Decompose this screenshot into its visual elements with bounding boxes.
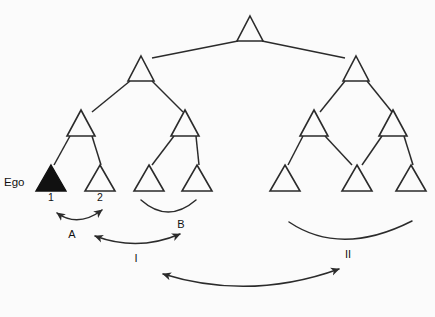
tree-node-root (237, 16, 263, 41)
edge-L2c-leaf5 (288, 136, 303, 165)
edge-L2b-leaf3 (152, 136, 174, 165)
relation-arc-bottom (163, 269, 339, 286)
edge-L1b-L2d (367, 81, 392, 112)
edge-L2a-leaf1 (54, 136, 70, 165)
edge-L1b-L2c (320, 81, 345, 112)
ego-label: Ego (4, 176, 24, 188)
relation-label-A: A (68, 228, 76, 240)
relation-label-I: I (134, 252, 137, 264)
relation-arc-I (95, 234, 180, 244)
tree-node-L2a (67, 110, 95, 136)
edge-root-L1a (152, 41, 238, 58)
relation-arc-A (57, 210, 102, 220)
edge-L2a-leaf2 (92, 136, 101, 165)
edge-L2b-leaf4 (196, 136, 199, 165)
edge-L2c-leaf6 (325, 136, 352, 165)
edge-L2d-leaf6 (362, 136, 382, 165)
tree-node-leaf5 (270, 165, 300, 191)
tree-edges (54, 41, 413, 165)
tree-node-leaf4 (182, 165, 212, 191)
relation-arc-B (141, 200, 196, 212)
edge-L1a-L2b (152, 81, 183, 112)
relation-arc-II (289, 221, 412, 239)
tree-node-L2c (300, 110, 328, 136)
tree-node-L1b (343, 56, 369, 81)
leaf-2-number-label: 2 (97, 191, 103, 203)
tree-node-leaf3 (134, 165, 164, 191)
leaf-1-number-label: 1 (48, 191, 54, 203)
relation-label-B: B (177, 218, 184, 230)
edge-L1a-L2a (92, 81, 130, 112)
tree-node-leaf1-ego (36, 165, 66, 191)
figure-caption (0, 308, 435, 317)
edge-L2d-leaf7 (404, 136, 413, 165)
relation-label-II: II (345, 248, 351, 260)
tree-diagram-canvas: Ego 1 2 A B I II (0, 0, 435, 317)
tree-diagram-svg: Ego 1 2 A B I II (0, 0, 435, 317)
tree-node-leaf6 (342, 165, 372, 191)
tree-node-leaf7 (396, 165, 426, 191)
relation-annotations (57, 200, 412, 286)
tree-node-L1a (128, 56, 154, 81)
tree-node-L2d (379, 110, 407, 136)
tree-node-leaf2 (85, 165, 115, 191)
edge-root-L1b (262, 41, 345, 58)
tree-node-L2b (171, 110, 199, 136)
